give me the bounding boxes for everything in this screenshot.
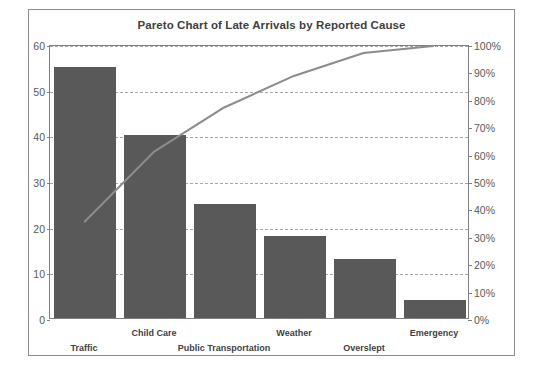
chart-title: Pareto Chart of Late Arrivals by Reporte… bbox=[29, 19, 514, 31]
y-axis-left-tick-label: 50 bbox=[33, 86, 45, 98]
y-axis-left-tick-label: 10 bbox=[33, 268, 45, 280]
y-axis-right-tick bbox=[468, 128, 472, 129]
y-axis-right-tick bbox=[468, 265, 472, 266]
y-axis-right-tick-label: 0% bbox=[474, 314, 489, 326]
y-axis-right-tick bbox=[468, 46, 472, 47]
y-axis-left-tick-label: 0 bbox=[39, 314, 45, 326]
cumulative-line bbox=[85, 46, 433, 221]
chart-frame: Pareto Chart of Late Arrivals by Reporte… bbox=[28, 9, 515, 356]
cumulative-line-series bbox=[50, 46, 468, 318]
y-axis-right-tick-label: 40% bbox=[474, 204, 495, 216]
y-axis-left-tick-label: 60 bbox=[33, 40, 45, 52]
y-axis-right-tick-label: 80% bbox=[474, 95, 495, 107]
y-axis-left-tick-label: 20 bbox=[33, 223, 45, 235]
y-axis-right-tick bbox=[468, 238, 472, 239]
y-axis-right-tick bbox=[468, 156, 472, 157]
y-axis-right-tick-label: 60% bbox=[474, 150, 495, 162]
x-axis-label-overslept: Overslept bbox=[343, 343, 385, 353]
x-axis-category-labels: TrafficChild CarePublic TransportationWe… bbox=[49, 319, 469, 363]
y-axis-right-tick-label: 100% bbox=[474, 40, 501, 52]
y-axis-left-tick-label: 30 bbox=[33, 177, 45, 189]
x-axis-label-weather: Weather bbox=[276, 328, 311, 338]
y-axis-right-tick bbox=[468, 293, 472, 294]
x-axis-label-emergency: Emergency bbox=[410, 328, 459, 338]
y-axis-left-tick-label: 40 bbox=[33, 131, 45, 143]
y-axis-right-tick-label: 70% bbox=[474, 122, 495, 134]
plot-area: 0102030405060 0%10%20%30%40%50%60%70%80%… bbox=[49, 45, 469, 319]
x-axis-label-child-care: Child Care bbox=[131, 328, 176, 338]
y-axis-right-tick-label: 90% bbox=[474, 67, 495, 79]
y-axis-right-tick bbox=[468, 73, 472, 74]
x-axis-label-traffic: Traffic bbox=[70, 343, 97, 353]
y-axis-right-tick-label: 50% bbox=[474, 177, 495, 189]
y-axis-right-tick-label: 30% bbox=[474, 232, 495, 244]
x-axis-label-public-transportation: Public Transportation bbox=[178, 343, 271, 353]
y-axis-right-tick bbox=[468, 210, 472, 211]
y-axis-right-tick bbox=[468, 101, 472, 102]
y-axis-right-tick-label: 20% bbox=[474, 259, 495, 271]
y-axis-right-tick-label: 10% bbox=[474, 287, 495, 299]
y-axis-right-tick bbox=[468, 183, 472, 184]
